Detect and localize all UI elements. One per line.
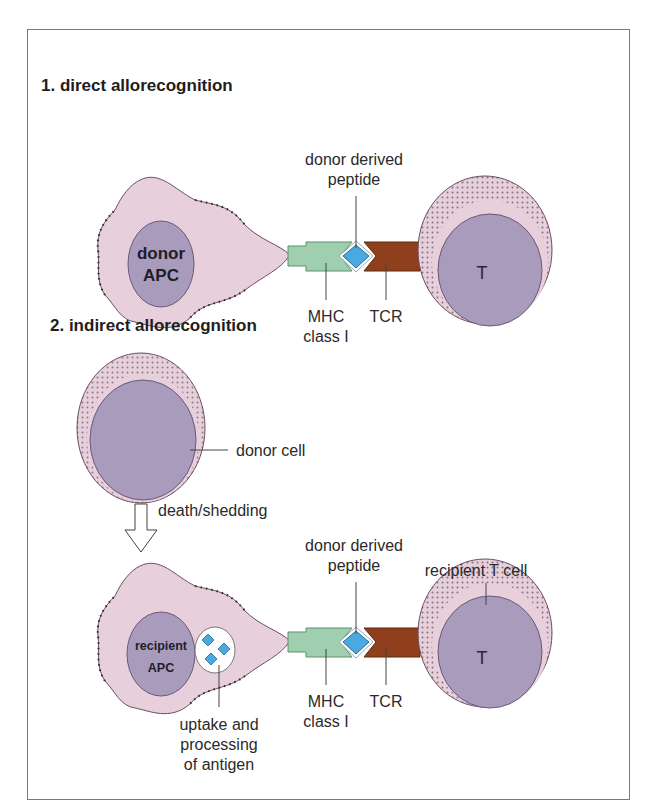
peptide-label-2: peptide — [328, 171, 381, 188]
panel-1-title: 1. direct allorecognition — [41, 76, 233, 95]
recipient-apc-label-2: APC — [148, 661, 174, 675]
uptake-label-2: processing — [180, 736, 257, 753]
donor-apc-nucleus — [128, 221, 194, 307]
tcr-label: TCR — [370, 308, 403, 325]
donor-apc-cell: donor APC — [98, 177, 290, 327]
allorecognition-diagram: 1. direct allorecognition donor APC T do… — [0, 0, 655, 808]
recipient-apc-nucleus — [127, 612, 195, 696]
donor-cell — [77, 353, 205, 503]
recipient-t-cell-label: recipient T cell — [425, 562, 528, 579]
tcr-label-2: TCR — [370, 693, 403, 710]
peptide-label-2b: peptide — [328, 557, 381, 574]
down-arrow-icon — [125, 504, 157, 552]
uptake-label: uptake and — [179, 716, 258, 733]
panel-2-title: 2. indirect allorecognition — [50, 316, 257, 335]
panel-indirect: 2. indirect allorecognition donor cell d… — [50, 316, 552, 773]
recipient-t-cell: T — [418, 559, 552, 708]
donor-cell-label: donor cell — [236, 442, 305, 459]
mhc-label: MHC — [308, 308, 344, 325]
t-cell-label-2: T — [477, 648, 488, 668]
panel-direct: 1. direct allorecognition donor APC T do… — [41, 76, 552, 345]
death-shedding-label: death/shedding — [158, 502, 267, 519]
recipient-apc-cell: recipient APC — [98, 563, 290, 713]
t-cell: T — [418, 176, 552, 326]
peptide-label: donor derived — [305, 151, 403, 168]
donor-apc-label: donor — [137, 244, 186, 263]
donor-apc-label-2: APC — [143, 266, 179, 285]
recipient-apc-label: recipient — [135, 639, 188, 653]
uptake-label-3: of antigen — [184, 756, 254, 773]
mhc-label-2: class I — [303, 328, 348, 345]
mhc-label-2b: class I — [303, 713, 348, 730]
t-cell-label: T — [477, 263, 488, 283]
mhc-label-2a: MHC — [308, 693, 344, 710]
peptide-label-2a: donor derived — [305, 537, 403, 554]
